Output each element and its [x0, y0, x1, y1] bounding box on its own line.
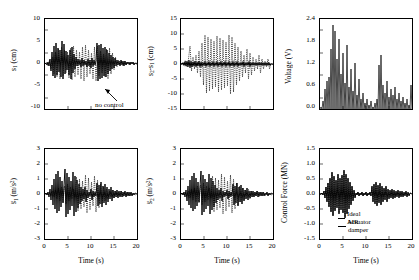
ytick-p5-5: -2 [158, 220, 176, 227]
xtick-p6-1: 5 [335, 243, 349, 250]
ytick-p3-1: 1.8 [293, 37, 315, 44]
ytick-p2-3: 0 [157, 60, 177, 67]
xtick-p5-3: 15 [242, 243, 256, 250]
plot-svg-p5 [181, 149, 273, 239]
ytick-p6-3: 0.0 [291, 190, 315, 197]
xtick-p5-1: 5 [196, 243, 210, 250]
xtick-p4-4: 20 [129, 243, 143, 250]
ytick-p5-4: -1 [158, 205, 176, 212]
ytick-p4-0: 3 [22, 145, 40, 152]
ytick-p3-2: 1.2 [293, 59, 315, 66]
ytick-p6-0: 1.5 [291, 145, 315, 152]
plot-area-p1 [44, 18, 138, 110]
xtick-p6-3: 15 [381, 243, 395, 250]
plot-area-p2 [180, 18, 274, 110]
xtick-p4-3: 15 [106, 243, 120, 250]
plot-svg-p3 [320, 19, 412, 109]
figure-root: s1 (cm) 10 5 0 -5 -10 [0, 0, 419, 280]
axis-label-x-p6: Time (s) [329, 256, 403, 265]
ytick-p1-2: 0 [22, 59, 40, 66]
ytick-p2-0: 15 [157, 15, 177, 22]
ytick-p4-5: -2 [22, 220, 40, 227]
plot-area-p5 [180, 148, 274, 240]
series-controlled-p4 [45, 169, 137, 217]
plot-svg-p1 [45, 19, 137, 109]
axis-label-y-p6: Control Force (MN) [281, 152, 291, 234]
ytick-p1-0: 10 [22, 15, 40, 22]
ytick-p1-4: -10 [22, 103, 40, 110]
plot-area-p3 [319, 18, 413, 110]
ytick-p4-4: -1 [22, 205, 40, 212]
legend-item-mr-damper: MR damper [338, 222, 374, 230]
plot-area-p4 [44, 148, 138, 240]
axis-label-y-p5: s̈2 (m/s2) [146, 160, 156, 222]
xtick-p4-2: 10 [83, 243, 97, 250]
ytick-p5-6: -3 [158, 235, 176, 242]
legend-line-ideal-actuator [338, 218, 345, 219]
axis-label-x-p5: Time (s) [190, 256, 264, 265]
plot-svg-p4 [45, 149, 137, 239]
ytick-p4-2: 1 [22, 175, 40, 182]
axis-label-y-p1: s1 (cm) [10, 30, 20, 90]
ytick-p5-0: 3 [158, 145, 176, 152]
series-controlled-p1 [45, 41, 137, 81]
ytick-p6-1: 1.0 [291, 160, 315, 167]
xtick-p6-4: 20 [404, 243, 418, 250]
ytick-p5-1: 2 [158, 160, 176, 167]
ytick-p6-2: 0.5 [291, 175, 315, 182]
xtick-p5-0: 0 [173, 243, 187, 250]
annotation-no-control: no control [95, 101, 124, 109]
ytick-p6-6: -1.5 [291, 235, 315, 242]
ytick-p2-6: -15 [157, 105, 177, 112]
legend-p6: Ideal Actuator MR damper [338, 214, 374, 230]
ytick-p2-1: 10 [157, 30, 177, 37]
series-voltage-p3 [320, 25, 412, 109]
ytick-p2-2: 5 [157, 45, 177, 52]
ytick-p4-6: -3 [22, 235, 40, 242]
xtick-p5-4: 20 [265, 243, 279, 250]
ytick-p4-1: 2 [22, 160, 40, 167]
ytick-p1-1: 5 [22, 37, 40, 44]
ytick-p4-3: 0 [22, 190, 40, 197]
xtick-p6-0: 0 [312, 243, 326, 250]
ytick-p2-4: -5 [157, 75, 177, 82]
legend-line-mr-damper [338, 226, 346, 227]
ytick-p5-3: 0 [158, 190, 176, 197]
legend-label-mr-damper: MR damper [348, 218, 374, 235]
ytick-p6-4: -0.5 [291, 205, 315, 212]
axis-label-y-p4: s̈1 (m/s2) [10, 160, 20, 222]
series-controlled-p5 [181, 171, 273, 215]
ytick-p1-3: -5 [22, 81, 40, 88]
ytick-p3-3: 0.6 [293, 81, 315, 88]
ytick-p6-5: -1.0 [291, 220, 315, 227]
axis-label-x-p4: Time (s) [54, 256, 128, 265]
ytick-p3-0: 2.4 [293, 15, 315, 22]
xtick-p5-2: 10 [219, 243, 233, 250]
ytick-p3-4: 0.0 [293, 103, 315, 110]
xtick-p4-1: 5 [60, 243, 74, 250]
ytick-p5-2: 1 [158, 175, 176, 182]
ytick-p2-5: -10 [157, 90, 177, 97]
xtick-p6-2: 10 [358, 243, 372, 250]
xtick-p4-0: 0 [37, 243, 51, 250]
annotation-arrow-p1 [105, 89, 117, 101]
axis-label-y-p2: s2-s1 (cm) [147, 28, 157, 94]
plot-svg-p2 [181, 19, 273, 109]
